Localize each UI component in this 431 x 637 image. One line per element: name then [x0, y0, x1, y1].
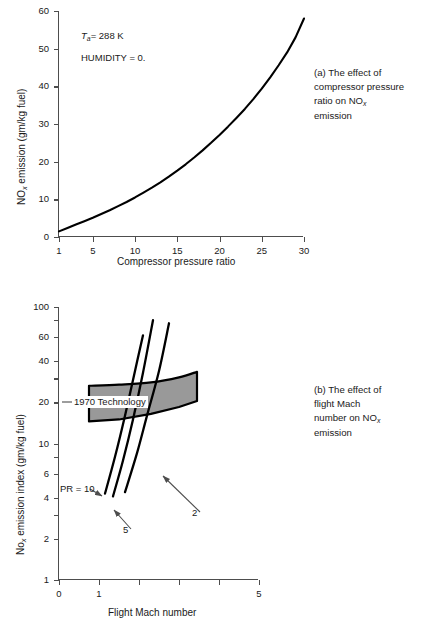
panel-a-ylabel-60: 60: [25, 6, 49, 16]
panel-a-ylabel-40: 40: [25, 82, 49, 92]
panel-b-xtick-0: [59, 580, 60, 585]
panel-b-xtick-2: [139, 580, 140, 585]
panel-b-x-axis-title: Flight Mach number: [108, 607, 196, 618]
panel-a-x-axis-title: Compressor pressure ratio: [117, 256, 235, 267]
panel-b-xtick-1: [99, 580, 100, 585]
panel-a-caption-line-1: (a) The effect of: [314, 66, 426, 80]
panel-a-caption-line-3-text: ratio on NO: [314, 95, 363, 106]
panel-a-annotation-ambient-temp: Ta= 288 K: [81, 30, 124, 43]
panel-b-xtick-4: [219, 580, 220, 585]
panel-b-curve-layer: [59, 307, 259, 580]
panel-b-ylabel-10: 10: [25, 439, 49, 449]
panel-a-y-axis-title-post: emission (gm/kg fuel): [16, 89, 27, 187]
panel-a-nox-curve: [59, 19, 304, 232]
panel-b-caption-line-3: number on NOx: [314, 411, 426, 426]
panel-a-xtick-5: [93, 237, 94, 242]
panel-b-curve-label-pr-2: 2: [192, 507, 197, 520]
panel-a-caption-line-3: ratio on NOx: [314, 94, 426, 109]
panel-a-xtick-10: [135, 237, 136, 242]
panel-a-xlabel-15: 15: [172, 246, 183, 256]
panel-b-ylabel-1: 1: [25, 575, 49, 585]
panel-b-caption-subscript: x: [377, 417, 380, 424]
panel-a-xlabel-1: 1: [56, 246, 61, 256]
panel-b-ylabel-2: 2: [25, 534, 49, 544]
panel-b-ylabel-6: 6: [25, 469, 49, 479]
panel-a-xlabel-5: 5: [90, 246, 95, 256]
panel-a-ylabel-0: 0: [25, 232, 49, 242]
panel-a-xtick-1: [59, 237, 60, 242]
panel-b-plot-area: 1 2 4 6 10 20 40 60 100 0 1 5: [58, 307, 258, 580]
panel-a-xtick-25: [262, 237, 263, 242]
panel-b-caption: (b) The effect of flight Mach number on …: [314, 383, 426, 440]
panel-a-ylabel-20: 20: [25, 157, 49, 167]
panel-b-xtick-5: [259, 580, 260, 585]
panel-a-annotation-T-value: = 288 K: [91, 30, 124, 41]
panel-a-xtick-20: [220, 237, 221, 242]
panel-a-ylabel-30: 30: [25, 119, 49, 129]
panel-a-curve-layer: [59, 11, 304, 237]
panel-b-xlabel-0: 0: [56, 589, 61, 599]
panel-b-curve-label-pr-5: 5: [123, 524, 128, 537]
panel-b-ylabel-100: 100: [25, 302, 49, 312]
panel-a-ylabel-50: 50: [25, 44, 49, 54]
panel-a-xtick-30: [304, 237, 305, 242]
panel-a-caption-subscript: x: [363, 100, 366, 107]
panel-b-xtick-3: [179, 580, 180, 585]
panel-a-ylabel-10: 10: [25, 195, 49, 205]
panel-b-ylabel-60: 60: [25, 332, 49, 342]
panel-b-ylabel-20: 20: [25, 398, 49, 408]
panel-a-xlabel-25: 25: [256, 246, 267, 256]
panel-b-caption-line-1: (b) The effect of: [314, 383, 426, 397]
panel-a-plot-area: 0 10 20 30 40 50 60 1 5 10 15 20 25 30 T…: [58, 11, 303, 237]
panel-a-xlabel-10: 10: [130, 246, 141, 256]
panel-a-xlabel-30: 30: [299, 246, 310, 256]
panel-b-caption-line-3-text: number on NO: [314, 412, 377, 423]
panel-b-xlabel-1: 1: [96, 589, 101, 599]
panel-a-annotation-humidity: HUMIDITY = 0.: [81, 52, 146, 65]
figure-panel-b: Nox emission index (gm/kg fuel) Flight M…: [0, 290, 431, 637]
panel-b-xlabel-5: 5: [256, 589, 261, 599]
panel-b-caption-line-2: flight Mach: [314, 397, 426, 411]
panel-b-y-axis-title-pre: No: [15, 542, 26, 555]
panel-a-xlabel-20: 20: [214, 246, 225, 256]
panel-a-caption: (a) The effect of compressor pressure ra…: [314, 66, 426, 123]
panel-a-xtick-15: [177, 237, 178, 242]
panel-b-ylabel-40: 40: [25, 357, 49, 367]
panel-a-y-axis-title-sub: x: [20, 186, 29, 190]
panel-b-curve-label-pr-10: PR = 10: [60, 483, 95, 496]
panel-b-band-label: 1970 Technology: [72, 396, 148, 408]
panel-b-caption-line-4: emission: [314, 426, 426, 440]
panel-a-y-axis-title: NOx emission (gm/kg fuel): [16, 89, 29, 205]
panel-b-ylabel-4: 4: [25, 493, 49, 503]
figure-panel-a: NOx emission (gm/kg fuel) Compressor pre…: [0, 0, 431, 290]
panel-a-caption-line-2: compressor pressure: [314, 80, 426, 94]
panel-a-caption-line-4: emission: [314, 109, 426, 123]
